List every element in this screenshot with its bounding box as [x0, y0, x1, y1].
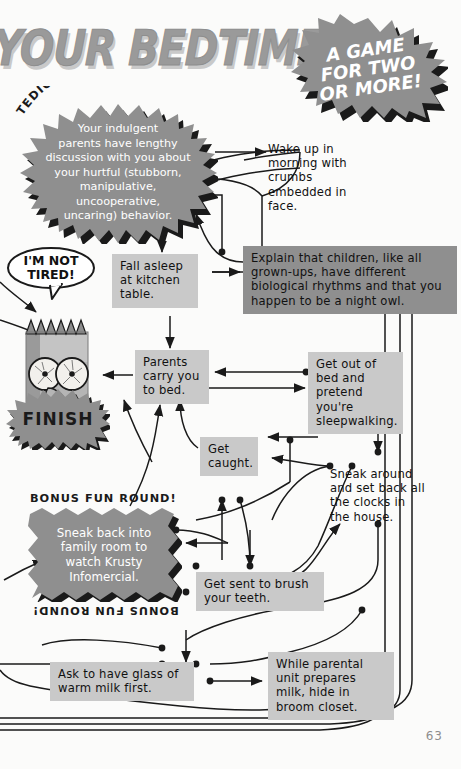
node-get-out-of-bed: Get out of bed and pretend you're sleepw…: [308, 352, 403, 434]
speech-line-2: TIRED!: [27, 268, 74, 282]
node-get-caught: Get caught.: [200, 437, 258, 476]
node-brush-teeth: Get sent to brush your teeth.: [196, 572, 324, 611]
jagged-box-shape: [26, 508, 182, 602]
speech-bubble-text: I'M NOT TIRED!: [6, 246, 96, 290]
sneak-back-node: Sneak back into family room to watch Kru…: [26, 508, 182, 602]
page-number: 63: [426, 729, 443, 743]
finish-node: FINISH: [6, 388, 110, 450]
node-explain: Explain that children, like all grown-up…: [243, 246, 457, 314]
node-fall-asleep: Fall asleep at kitchen table.: [112, 254, 198, 308]
node-warm-milk: Ask to have glass of warm milk first.: [50, 662, 194, 701]
game-board: YOUR BEDTIME A GAME FOR TWO OR MORE! TED…: [0, 0, 461, 769]
node-broom-closet: While parental unit prepares milk, hide …: [268, 652, 394, 720]
node-parents-carry: Parents carry you to bed.: [135, 350, 209, 404]
node-sneak-around: Sneak around and set back all the clocks…: [330, 467, 426, 524]
bonus-round-bottom-label: BONUS FUN ROUND!: [32, 604, 179, 617]
starburst-shape: [288, 14, 448, 122]
rap-session-node: Your indulgent parents have lengthy disc…: [18, 102, 218, 244]
page-title: YOUR BEDTIME: [0, 20, 325, 77]
a-game-for-two-badge: A GAME FOR TWO OR MORE!: [288, 14, 448, 122]
im-not-tired-speech-bubble: I'M NOT TIRED!: [6, 246, 96, 300]
starburst-shape: [18, 102, 218, 244]
speech-line-1: I'M NOT: [24, 254, 79, 268]
node-wake-up: Wake up in morning with crumbs embedded …: [268, 142, 360, 213]
starburst-shape: [6, 388, 110, 450]
bonus-round-top-label: BONUS FUN ROUND!: [30, 492, 177, 505]
